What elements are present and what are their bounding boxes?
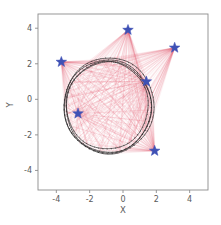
trajectory-sample-dot: [66, 89, 67, 90]
trajectory-sample-dot: [147, 109, 148, 110]
trajectory-sample-dot: [75, 74, 76, 75]
trajectory-sample-dot: [124, 60, 125, 61]
trajectory-sample-dot: [73, 76, 74, 77]
trajectory-sample-dot: [124, 149, 125, 150]
trajectory-sample-dot: [133, 69, 134, 70]
trajectory-sample-dot: [130, 66, 131, 67]
trajectory-sample-dot: [128, 147, 129, 148]
trajectory-sample-dot: [120, 150, 121, 151]
trajectory-sample-dot: [102, 148, 103, 149]
trajectory-sample-dot: [86, 143, 87, 144]
y-tick-label: 0: [27, 95, 32, 104]
trajectory-sample-dot: [108, 59, 109, 60]
trajectory-sample-dot: [107, 153, 108, 154]
trajectory-sample-dot: [103, 59, 104, 60]
trajectory-sample-dot: [76, 72, 77, 73]
trajectory-sample-dot: [113, 62, 114, 63]
trajectory-sample-dot: [90, 63, 91, 64]
trajectory-sample-dot: [107, 149, 108, 150]
trajectory-sample-dot: [66, 101, 67, 102]
trajectory-sample-dot: [149, 126, 150, 127]
trajectory-sample-dot: [142, 134, 143, 135]
trajectory-sample-dot: [128, 62, 129, 63]
trajectory-sample-dot: [91, 61, 92, 62]
trajectory-sample-dot: [142, 127, 143, 128]
trajectory-sample-dot: [74, 80, 75, 81]
trajectory-sample-dot: [69, 125, 70, 126]
x-tick-label: -2: [86, 195, 94, 204]
trajectory-sample-dot: [134, 137, 135, 138]
trajectory-sample-dot: [71, 129, 72, 130]
trajectory-sample-dot: [69, 88, 70, 89]
trajectory-sample-dot: [140, 75, 141, 76]
trajectory-sample-dot: [111, 148, 112, 149]
x-tick-label: 4: [187, 195, 192, 204]
trajectory-sample-dot: [83, 69, 84, 70]
trajectory-sample-dot: [126, 64, 127, 65]
trajectory-sample-dot: [113, 60, 114, 61]
trajectory-sample-dot: [98, 148, 99, 149]
trajectory-sample-dot: [136, 141, 137, 142]
trajectory-sample-dot: [85, 146, 86, 147]
trajectory-sample-dot: [68, 120, 69, 121]
trajectory-sample-dot: [73, 131, 74, 132]
trajectory-sample-dot: [87, 63, 88, 64]
trajectory-sample-dot: [87, 67, 88, 68]
trajectory-sample-dot: [144, 134, 145, 135]
trajectory-sample-dot: [153, 97, 154, 98]
trajectory-sample-dot: [147, 88, 148, 89]
x-tick-label: 0: [120, 195, 125, 204]
trajectory-sample-dot: [79, 140, 80, 141]
trajectory-sample-dot: [132, 64, 133, 65]
trajectory-sample-dot: [64, 114, 65, 115]
trajectory-sample-dot: [137, 72, 138, 73]
trajectory-sample-dot: [146, 118, 147, 119]
x-axis-label: X: [120, 205, 126, 215]
trajectory-sample-dot: [65, 119, 66, 120]
trajectory-sample-dot: [65, 94, 66, 95]
y-axis-label: Y: [5, 102, 15, 109]
trajectory-sample-dot: [115, 152, 116, 153]
trajectory-sample-dot: [76, 137, 77, 138]
trajectory-sample-dot: [127, 143, 128, 144]
trajectory-sample-dot: [134, 145, 135, 146]
trajectory-sample-dot: [79, 137, 80, 138]
trajectory-sample-dot: [67, 97, 68, 98]
trajectory-sample-dot: [150, 87, 151, 88]
trajectory-sample-dot: [115, 148, 116, 149]
trajectory-sample-dot: [76, 134, 77, 135]
trajectory-sample-dot: [93, 150, 94, 151]
trajectory-sample-dot: [130, 147, 131, 148]
trajectory-sample-dot: [94, 63, 95, 64]
trajectory-sample-dot: [147, 114, 148, 115]
trajectory-sample-dot: [77, 140, 78, 141]
trajectory-sample-dot: [137, 134, 138, 135]
trajectory-sample-dot: [68, 92, 69, 93]
trajectory-sample-dot: [144, 87, 145, 88]
trajectory-sample-dot: [94, 61, 95, 62]
trajectory-sample-dot: [121, 62, 122, 63]
trajectory-sample-dot: [83, 70, 84, 71]
trajectory-sample-dot: [83, 140, 84, 141]
trajectory-sample-dot: [151, 107, 152, 108]
trajectory-sample-dot: [117, 62, 118, 63]
trajectory-sample-dot: [112, 153, 113, 154]
trajectory-sample-dot: [63, 104, 64, 105]
trajectory-sample-dot: [96, 59, 97, 60]
trajectory-sample-dot: [82, 68, 83, 69]
trajectory-sample-dot: [145, 130, 146, 131]
trajectory-sample-dot: [123, 145, 124, 146]
y-tick-label: 2: [27, 60, 32, 69]
trajectory-sample-dot: [150, 116, 151, 117]
trajectory-sample-dot: [139, 70, 140, 71]
trajectory-sample-dot: [149, 92, 150, 93]
trajectory-sample-dot: [136, 67, 137, 68]
trajectory-sample-dot: [126, 150, 127, 151]
trajectory-sample-dot: [81, 143, 82, 144]
trajectory-sample-dot: [138, 142, 139, 143]
trajectory-sample-dot: [147, 126, 148, 127]
x-tick-label: 2: [154, 195, 159, 204]
trajectory-sample-dot: [119, 146, 120, 147]
trajectory-sample-dot: [86, 67, 87, 68]
trajectory-sample-dot: [140, 131, 141, 132]
